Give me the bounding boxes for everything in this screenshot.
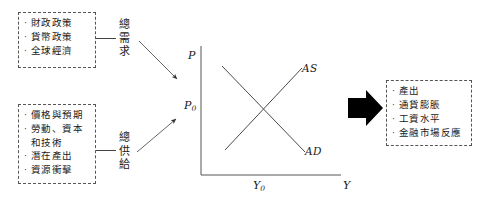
diagram-canvas: ·財政政策 ·貨幣政策 ·全球經濟 總 需 求 ·價格與預期 ·勞動、資本 和技… [0,0,485,208]
connector-supply [96,150,116,151]
bullet-dot: · [392,127,399,140]
bullet-dot: · [392,99,399,112]
bullet-dot: · [24,150,31,163]
list-item: ·工資水平 [392,112,467,126]
label-aggregate-demand: 總 需 求 [116,18,132,59]
x-tick-label-Y0: Y0 [253,179,265,193]
list-item: ·價格與預期 [24,108,91,122]
outcomes-list: ·產出 ·通貨膨脹 ·工資水平 ·金融市場反應 [386,80,472,146]
bullet-dot: · [24,31,31,44]
curve-ad [222,66,305,152]
list-item: ·全球經濟 [24,44,91,58]
supply-factors-list: ·價格與預期 ·勞動、資本 和技術 ·潛在產出 ·資源衝擊 [18,104,96,184]
x-axis-label-Y: Y [343,179,350,192]
list-item: ·通貨膨脹 [392,98,467,112]
bullet-dot: · [24,109,31,122]
label-aggregate-supply: 總 供 給 [116,131,132,172]
list-item: ·勞動、資本 [24,122,91,136]
curve-as [225,68,302,150]
connector-demand [96,38,116,39]
curve-label-ad: AD [305,145,322,157]
y-tick-label-P0: P0 [184,99,196,113]
bullet-dot: · [392,85,399,98]
demand-factors-list: ·財政政策 ·貨幣政策 ·全球經濟 [18,12,96,68]
curve-label-as: AS [302,62,317,74]
arrow-demand-to-chart [139,41,177,79]
arrow-supply-to-chart [137,119,176,152]
bullet-dot: · [24,17,31,30]
list-item: ·金融市場反應 [392,126,467,140]
bullet-dot: · [392,113,399,126]
list-item: ·產出 [392,84,467,98]
bullet-dot: · [24,45,31,58]
list-item: ·潛在產出 [24,149,91,163]
bullet-dot: · [24,123,31,136]
block-arrow-to-outcomes [348,90,383,126]
list-item: ·財政政策 [24,16,91,30]
bullet-dot: · [24,164,31,177]
list-item-continuation: 和技術 [24,136,91,149]
y-axis-label-P: P [188,49,195,62]
list-item: ·貨幣政策 [24,30,91,44]
list-item: ·資源衝擊 [24,163,91,177]
